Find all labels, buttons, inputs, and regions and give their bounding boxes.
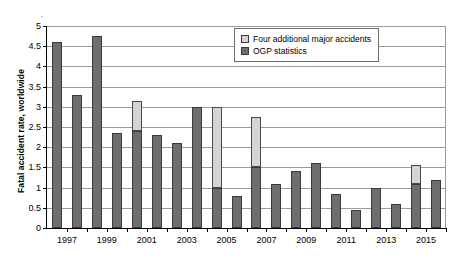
bar-group[interactable] [112, 26, 122, 228]
x-axis-tick [306, 228, 307, 232]
x-axis-tick [266, 228, 267, 232]
legend-swatch-icon [241, 47, 249, 55]
bar-segment-ogp[interactable] [212, 188, 222, 228]
bar-group[interactable] [172, 26, 182, 228]
x-axis-label: 2009 [296, 235, 316, 245]
y-axis-label: 1.5 [28, 162, 41, 172]
x-axis-tick [187, 228, 188, 232]
x-axis-tick [107, 228, 108, 232]
bar-group[interactable] [431, 26, 441, 228]
bar-group[interactable] [152, 26, 162, 228]
bar-group[interactable] [391, 26, 401, 228]
bar-segment-ogp[interactable] [251, 167, 261, 228]
y-axis-title: Fatal accident rate, worldwide [14, 16, 28, 246]
x-axis-label: 1997 [57, 235, 77, 245]
bar-group[interactable] [92, 26, 102, 228]
legend-label-extra: Four additional major accidents [253, 34, 371, 44]
bar-segment-ogp[interactable] [271, 184, 281, 228]
bar-segment-additional[interactable] [132, 101, 142, 131]
bar-segment-ogp[interactable] [132, 131, 142, 228]
x-axis-tick [207, 228, 208, 232]
bar-segment-ogp[interactable] [371, 188, 381, 228]
x-axis-tick [167, 228, 168, 232]
bar-group[interactable] [212, 26, 222, 228]
bar-segment-ogp[interactable] [411, 184, 421, 228]
x-axis-tick [247, 228, 248, 232]
chart-container: ' Fatal accident rate, worldwide 00.511.… [0, 0, 460, 268]
x-axis-label: 2001 [137, 235, 157, 245]
bar-segment-additional[interactable] [411, 165, 421, 183]
bar-group[interactable] [411, 26, 421, 228]
bar-segment-ogp[interactable] [431, 180, 441, 228]
x-axis-label: 2013 [376, 235, 396, 245]
x-axis-tick [446, 228, 447, 232]
bar-segment-ogp[interactable] [331, 194, 341, 228]
y-axis-label: 3.5 [28, 82, 41, 92]
x-axis-label: 2003 [177, 235, 197, 245]
y-axis-label: 1 [36, 183, 41, 193]
chart-legend: Four additional major accidents OGP stat… [234, 28, 379, 62]
x-axis-tick [366, 228, 367, 232]
y-axis-label: 3 [36, 102, 41, 112]
legend-item-base: OGP statistics [241, 45, 371, 57]
y-axis-label: 5 [36, 21, 41, 31]
y-axis-label: 4 [36, 61, 41, 71]
x-axis-label: 2011 [337, 235, 356, 245]
y-axis-label: 0.5 [28, 203, 41, 213]
x-axis-tick [127, 228, 128, 232]
bar-group[interactable] [132, 26, 142, 228]
y-axis-label: 2.5 [28, 122, 41, 132]
legend-swatch-icon [241, 35, 249, 43]
x-axis-tick [386, 228, 387, 232]
x-axis-label: 1999 [97, 235, 117, 245]
stray-mark: ' [41, 14, 43, 23]
bar-segment-ogp[interactable] [391, 204, 401, 228]
bar-group[interactable] [72, 26, 82, 228]
y-axis-label: 4.5 [28, 41, 41, 51]
x-axis-tick [147, 228, 148, 232]
x-axis-tick [286, 228, 287, 232]
x-axis-tick [406, 228, 407, 232]
x-axis-tick [346, 228, 347, 232]
x-axis-tick [326, 228, 327, 232]
bar-segment-ogp[interactable] [192, 107, 202, 228]
bar-segment-additional[interactable] [212, 107, 222, 188]
x-axis-label: 2007 [256, 235, 276, 245]
bar-segment-additional[interactable] [251, 117, 261, 168]
bar-segment-ogp[interactable] [152, 135, 162, 228]
bar-segment-ogp[interactable] [72, 95, 82, 228]
y-axis-label: 2 [36, 142, 41, 152]
legend-item-extra: Four additional major accidents [241, 33, 371, 45]
x-axis-tick [67, 228, 68, 232]
x-axis-label: 2015 [416, 235, 436, 245]
bar-group[interactable] [192, 26, 202, 228]
x-axis-tick [227, 228, 228, 232]
bar-segment-ogp[interactable] [291, 171, 301, 228]
bar-group[interactable] [52, 26, 62, 228]
bar-segment-ogp[interactable] [351, 210, 361, 228]
bar-segment-ogp[interactable] [172, 143, 182, 228]
x-axis-tick [87, 228, 88, 232]
legend-label-base: OGP statistics [253, 46, 307, 56]
y-axis-label: 0 [36, 223, 41, 233]
bar-segment-ogp[interactable] [112, 133, 122, 228]
bar-segment-ogp[interactable] [232, 196, 242, 228]
y-axis-tick [43, 228, 47, 229]
bar-segment-ogp[interactable] [311, 163, 321, 228]
bar-segment-ogp[interactable] [92, 36, 102, 228]
bar-segment-ogp[interactable] [52, 42, 62, 228]
x-axis-label: 2005 [217, 235, 237, 245]
x-axis-tick [426, 228, 427, 232]
